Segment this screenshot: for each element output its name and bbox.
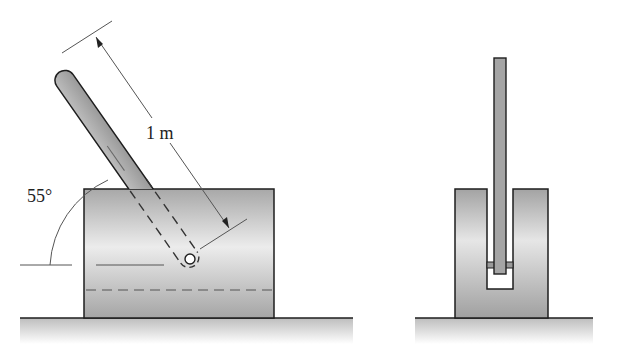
base-block (84, 189, 274, 318)
mechanism-diagram: 55° 1 m (0, 0, 618, 361)
pin-joint (185, 254, 195, 264)
length-label: 1 m (146, 123, 174, 143)
side-view: 55° 1 m (20, 21, 353, 344)
angle-label: 55° (27, 186, 52, 206)
ground-left (20, 318, 353, 344)
lever-rod-end-view (494, 58, 506, 274)
end-view (415, 58, 593, 344)
ground-right (415, 318, 593, 344)
